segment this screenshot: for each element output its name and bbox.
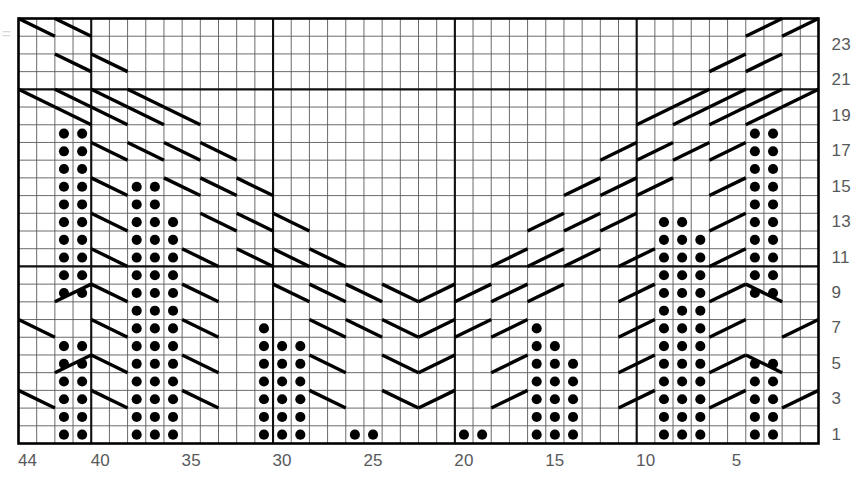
row-tick-label: 15 xyxy=(832,177,851,197)
purl-stitch-dot-icon xyxy=(659,235,669,245)
purl-stitch-dot-icon xyxy=(59,270,69,280)
purl-stitch-dot-icon xyxy=(695,376,705,386)
purl-stitch-dot-icon xyxy=(768,199,778,209)
purl-stitch-dot-icon xyxy=(77,253,87,263)
purl-stitch-dot-icon xyxy=(768,288,778,298)
purl-stitch-dot-icon xyxy=(150,376,160,386)
purl-stitch-dot-icon xyxy=(768,235,778,245)
purl-stitch-dot-icon xyxy=(168,288,178,298)
purl-stitch-dot-icon xyxy=(150,253,160,263)
purl-stitch-dot-icon xyxy=(695,341,705,351)
purl-stitch-dot-icon xyxy=(77,394,87,404)
purl-stitch-dot-icon xyxy=(550,376,560,386)
purl-stitch-dot-icon xyxy=(695,359,705,369)
purl-stitch-dot-icon xyxy=(277,359,287,369)
purl-stitch-dot-icon xyxy=(677,270,687,280)
purl-stitch-dot-icon xyxy=(132,394,142,404)
purl-stitch-dot-icon xyxy=(77,235,87,245)
purl-stitch-dot-icon xyxy=(259,323,269,333)
purl-stitch-dot-icon xyxy=(259,412,269,422)
purl-stitch-dot-icon xyxy=(150,235,160,245)
purl-stitch-dot-icon xyxy=(768,430,778,440)
purl-stitch-dot-icon xyxy=(677,217,687,227)
purl-stitch-dot-icon xyxy=(532,323,542,333)
purl-stitch-dot-icon xyxy=(459,430,469,440)
purl-stitch-dot-icon xyxy=(77,430,87,440)
purl-stitch-dot-icon xyxy=(277,341,287,351)
purl-stitch-dot-icon xyxy=(168,394,178,404)
purl-stitch-dot-icon xyxy=(168,217,178,227)
purl-stitch-dot-icon xyxy=(768,129,778,139)
purl-stitch-dot-icon xyxy=(659,430,669,440)
purl-stitch-dot-icon xyxy=(132,430,142,440)
purl-stitch-dot-icon xyxy=(77,146,87,156)
purl-stitch-dot-icon xyxy=(132,217,142,227)
purl-stitch-dot-icon xyxy=(150,412,160,422)
purl-stitch-dot-icon xyxy=(132,199,142,209)
purl-stitch-dot-icon xyxy=(695,412,705,422)
purl-stitch-dot-icon xyxy=(168,235,178,245)
purl-stitch-dot-icon xyxy=(659,323,669,333)
purl-stitch-dot-icon xyxy=(768,270,778,280)
purl-stitch-dot-icon xyxy=(677,412,687,422)
purl-stitch-dot-icon xyxy=(168,306,178,316)
purl-stitch-dot-icon xyxy=(132,359,142,369)
purl-stitch-dot-icon xyxy=(750,394,760,404)
purl-stitch-dot-icon xyxy=(568,376,578,386)
purl-stitch-dot-icon xyxy=(168,412,178,422)
purl-stitch-dot-icon xyxy=(295,341,305,351)
purl-stitch-dot-icon xyxy=(568,430,578,440)
purl-stitch-dot-icon xyxy=(59,412,69,422)
purl-stitch-dot-icon xyxy=(750,270,760,280)
purl-stitch-dot-icon xyxy=(677,341,687,351)
purl-stitch-dot-icon xyxy=(132,323,142,333)
purl-stitch-dot-icon xyxy=(750,146,760,156)
purl-stitch-dot-icon xyxy=(750,253,760,263)
row-tick-label: 5 xyxy=(832,354,842,374)
purl-stitch-dot-icon xyxy=(259,359,269,369)
purl-stitch-dot-icon xyxy=(568,359,578,369)
purl-stitch-dot-icon xyxy=(750,288,760,298)
purl-stitch-dot-icon xyxy=(77,341,87,351)
purl-stitch-dot-icon xyxy=(77,129,87,139)
purl-stitch-dot-icon xyxy=(568,412,578,422)
purl-stitch-dot-icon xyxy=(59,182,69,192)
purl-stitch-dot-icon xyxy=(768,217,778,227)
purl-stitch-dot-icon xyxy=(132,306,142,316)
purl-stitch-dot-icon xyxy=(532,341,542,351)
purl-stitch-dot-icon xyxy=(59,341,69,351)
purl-stitch-dot-icon xyxy=(77,164,87,174)
chart-page: = 44403530252015105 1357911131517192123 xyxy=(0,0,867,492)
purl-stitch-dot-icon xyxy=(132,288,142,298)
purl-stitch-dot-icon xyxy=(150,182,160,192)
purl-stitch-dot-icon xyxy=(750,182,760,192)
row-tick-label: 1 xyxy=(832,425,842,445)
purl-stitch-dot-icon xyxy=(659,253,669,263)
purl-stitch-dot-icon xyxy=(550,394,560,404)
purl-stitch-dot-icon xyxy=(132,182,142,192)
column-tick-label: 10 xyxy=(636,451,655,471)
purl-stitch-dot-icon xyxy=(677,376,687,386)
purl-stitch-dot-icon xyxy=(677,235,687,245)
row-tick-label: 17 xyxy=(832,141,851,161)
purl-stitch-dot-icon xyxy=(659,359,669,369)
row-tick-label: 3 xyxy=(832,389,842,409)
purl-stitch-dot-icon xyxy=(695,323,705,333)
purl-stitch-dot-icon xyxy=(750,359,760,369)
purl-stitch-dot-icon xyxy=(150,341,160,351)
purl-stitch-dot-icon xyxy=(750,235,760,245)
purl-stitch-dot-icon xyxy=(532,394,542,404)
purl-stitch-dot-icon xyxy=(77,376,87,386)
purl-stitch-dot-icon xyxy=(677,430,687,440)
purl-stitch-dot-icon xyxy=(59,129,69,139)
row-tick-label: 23 xyxy=(832,35,851,55)
purl-stitch-dot-icon xyxy=(132,341,142,351)
purl-stitch-dot-icon xyxy=(368,430,378,440)
purl-stitch-dot-icon xyxy=(768,253,778,263)
purl-stitch-dot-icon xyxy=(277,412,287,422)
purl-stitch-dot-icon xyxy=(477,430,487,440)
purl-stitch-dot-icon xyxy=(768,394,778,404)
purl-stitch-dot-icon xyxy=(132,235,142,245)
purl-stitch-dot-icon xyxy=(168,430,178,440)
purl-stitch-dot-icon xyxy=(59,430,69,440)
